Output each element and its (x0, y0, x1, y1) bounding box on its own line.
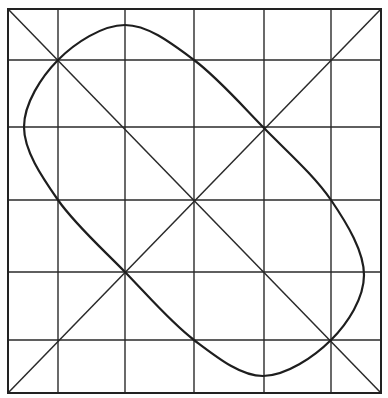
geometric-grid-diagram (0, 0, 388, 398)
